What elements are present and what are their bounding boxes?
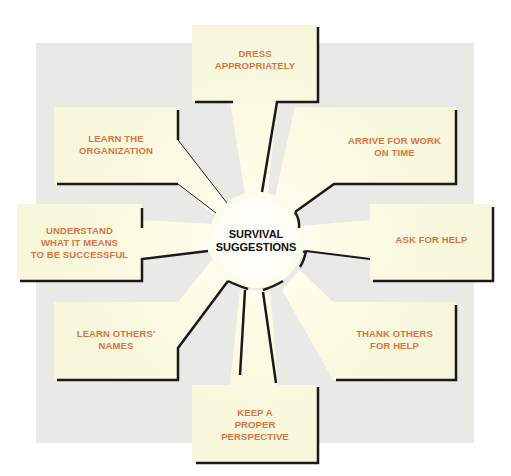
suggestion-learn-organization: LEARN THE ORGANIZATION: [54, 125, 178, 165]
suggestion-understand-success: UNDERSTAND WHAT IT MEANS TO BE SUCCESSFU…: [17, 221, 142, 265]
survival-suggestions-diagram: DRESS APPROPRIATELY ARRIVE FOR WORK ON T…: [0, 0, 511, 476]
suggestion-learn-names: LEARN OTHERS' NAMES: [54, 320, 178, 360]
suggestion-ask-for-help: ASK FOR HELP: [370, 225, 493, 255]
suggestion-arrive-on-time: ARRIVE FOR WORK ON TIME: [333, 127, 456, 167]
suggestion-dress-appropriately: DRESS APPROPRIATELY: [192, 40, 318, 80]
suggestion-thank-others: THANK OTHERS FOR HELP: [333, 320, 456, 360]
suggestion-keep-perspective: KEEP A PROPER PERSPECTIVE: [192, 403, 318, 447]
center-title: SURVIVAL SUGGESTIONS: [206, 221, 306, 261]
